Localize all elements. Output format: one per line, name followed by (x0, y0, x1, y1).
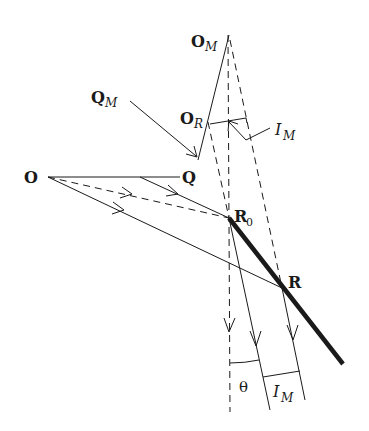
svg-text:0: 0 (246, 216, 253, 229)
reflected-ray-r (282, 288, 305, 400)
bracket-im-top-tick (246, 118, 247, 123)
leader-im-top (229, 122, 270, 140)
label-im-bottom: I M (272, 382, 294, 405)
svg-text:Q: Q (91, 88, 105, 107)
svg-text:O: O (180, 109, 194, 128)
arrow-icon (250, 331, 261, 346)
bracket-im-bottom (263, 371, 300, 377)
label-qm: Q M (91, 88, 118, 110)
label-om: O M (191, 32, 218, 54)
dashed-or-to-r0 (208, 122, 229, 218)
label-r: R (288, 273, 302, 292)
label-q: Q (182, 168, 196, 187)
arrow-icon (120, 187, 132, 198)
svg-text:I: I (272, 382, 280, 401)
svg-text:M: M (104, 96, 118, 110)
svg-text:I: I (274, 120, 282, 139)
label-theta: θ (239, 378, 248, 396)
svg-text:M: M (204, 40, 218, 54)
svg-text:R: R (193, 117, 203, 131)
arrow-icon (166, 185, 178, 196)
label-o: O (24, 168, 38, 187)
arrow-icon (287, 325, 298, 340)
ray-o-to-r (48, 177, 282, 288)
svg-text:M: M (280, 391, 294, 405)
ray-o-to-r0-dashed (48, 177, 229, 218)
optics-diagram: O M Q M O R I M O Q R 0 R θ I M (0, 0, 369, 431)
svg-text:M: M (282, 129, 296, 143)
svg-text:O: O (191, 32, 205, 51)
label-or: O R (180, 109, 203, 131)
label-r0: R 0 (234, 207, 253, 229)
label-im-top: I M (274, 120, 296, 143)
theta-arc (230, 360, 259, 363)
mirror-line (229, 218, 343, 364)
